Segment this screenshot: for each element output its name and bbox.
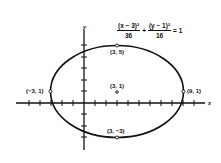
ellipse-graph bbox=[0, 0, 221, 163]
term1-fraction: (x − 3)² 36 bbox=[117, 22, 140, 39]
plus-sign: + bbox=[142, 27, 146, 34]
term1-denominator: 36 bbox=[125, 31, 132, 39]
label-left-vertex: (−3, 1) bbox=[26, 88, 44, 94]
vertex-top-point bbox=[116, 44, 119, 47]
label-center: (3, 1) bbox=[110, 83, 124, 89]
term2-fraction: (y − 1)² 16 bbox=[148, 22, 171, 39]
equals-one: = 1 bbox=[173, 27, 182, 34]
label-right-vertex: (9, 1) bbox=[187, 88, 201, 94]
vertex-right-point bbox=[182, 90, 185, 93]
x-axis-label: x bbox=[208, 100, 211, 106]
label-bottom-vertex: (3, −3) bbox=[107, 128, 125, 134]
term2-denominator: 16 bbox=[156, 31, 163, 39]
vertex-left-point bbox=[49, 90, 52, 93]
term1-numerator: (x − 3)² bbox=[117, 22, 140, 31]
vertex-bottom-point bbox=[116, 136, 119, 139]
center-point bbox=[116, 91, 119, 94]
term2-numerator: (y − 1)² bbox=[148, 22, 171, 31]
y-axis-label: y bbox=[83, 24, 86, 30]
label-top-vertex: (3, 5) bbox=[110, 49, 124, 55]
ellipse-equation: (x − 3)² 36 + (y − 1)² 16 = 1 bbox=[117, 22, 182, 39]
